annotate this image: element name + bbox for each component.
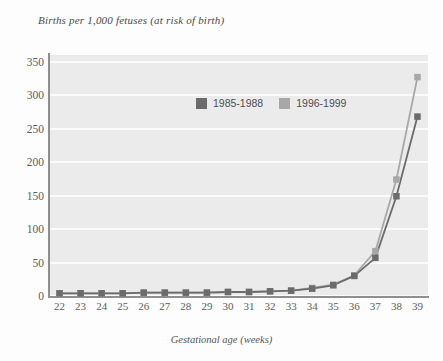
series-marker: [267, 288, 274, 295]
x-axis-tick-label: 36: [349, 300, 360, 312]
series-marker: [56, 290, 63, 297]
x-axis-tick-label: 33: [286, 300, 297, 312]
series-line: [60, 117, 418, 294]
x-axis-tick-label: 26: [138, 300, 149, 312]
x-axis-tick-label: 38: [391, 300, 402, 312]
x-axis-tick-label: 28: [180, 300, 191, 312]
x-axis-tick-label: 37: [370, 300, 381, 312]
series-marker: [119, 290, 126, 297]
x-axis-tick-label: 24: [96, 300, 107, 312]
series-marker: [393, 176, 400, 183]
x-axis-tick-label: 39: [412, 300, 423, 312]
y-axis-tick-label: 350: [8, 56, 44, 68]
y-axis-tick-label: 50: [8, 257, 44, 269]
series-marker: [330, 282, 337, 289]
series-marker: [77, 290, 84, 297]
series-marker: [225, 289, 232, 296]
x-axis-tick-label: 30: [222, 300, 233, 312]
series-marker: [204, 289, 211, 296]
x-axis-tick-labels: 222324252627282930313233343536373839: [49, 300, 428, 318]
chart-figure: Births per 1,000 fetuses (at risk of bir…: [0, 0, 443, 361]
x-axis-tick-label: 25: [117, 300, 128, 312]
y-axis-tick-label: 150: [8, 190, 44, 202]
x-axis-tick-label: 35: [328, 300, 339, 312]
y-axis-tick-label: 0: [8, 290, 44, 302]
chart-data-layer: [49, 55, 428, 296]
x-axis-tick-label: 34: [307, 300, 318, 312]
series-marker: [246, 289, 253, 296]
series-marker: [183, 289, 190, 296]
x-axis-line: [48, 296, 429, 298]
y-axis-tick-labels: 050100150200250300350: [4, 0, 44, 361]
series-marker: [351, 273, 358, 280]
series-marker: [162, 289, 169, 296]
x-axis-tick-label: 23: [75, 300, 86, 312]
x-axis-tick-label: 27: [159, 300, 170, 312]
series-marker: [141, 289, 148, 296]
series-marker: [98, 290, 105, 297]
chart-title: Births per 1,000 fetuses (at risk of bir…: [38, 14, 224, 26]
series-marker: [372, 255, 379, 262]
series-marker: [288, 287, 295, 294]
y-axis-tick-label: 300: [8, 89, 44, 101]
series-marker: [372, 248, 379, 255]
series-line: [60, 77, 418, 293]
series-marker: [414, 113, 421, 120]
y-axis-tick-label: 250: [8, 123, 44, 135]
series-marker: [309, 285, 316, 292]
y-axis-tick-label: 200: [8, 156, 44, 168]
x-axis-title: Gestational age (weeks): [0, 334, 443, 345]
x-axis-tick-label: 31: [244, 300, 255, 312]
series-marker: [393, 193, 400, 200]
y-axis-tick-label: 100: [8, 223, 44, 235]
x-axis-tick-label: 32: [265, 300, 276, 312]
x-axis-tick-label: 29: [201, 300, 212, 312]
x-axis-tick-label: 22: [54, 300, 65, 312]
series-marker: [414, 74, 421, 81]
